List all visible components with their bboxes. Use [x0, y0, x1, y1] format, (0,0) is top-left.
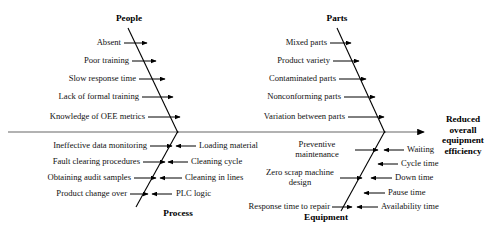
cause-process-right-1: Loading material — [199, 141, 289, 151]
cause-equipment-right-2: Cycle time — [401, 159, 471, 169]
cause-people-3: Slow response time — [20, 74, 136, 84]
cause-parts-1: Mixed parts — [230, 38, 327, 48]
fishbone-diagram: People Parts Process Equipment Reduced o… — [0, 0, 499, 249]
cause-equipment-right-3: Down time — [395, 173, 465, 183]
cause-equipment-right-5: Availability time — [381, 202, 471, 212]
cause-equipment-right-1: Waiting — [407, 145, 467, 155]
cause-equipment-right-4: Pause time — [388, 188, 458, 198]
category-label-process: Process — [148, 208, 208, 218]
effect-line-2: overall — [428, 125, 498, 136]
cause-equipment-left-3: Response time to repair — [220, 202, 330, 212]
cause-arrows-parts — [330, 43, 384, 117]
cause-process-left-1: Ineffective data monitoring — [20, 141, 147, 151]
category-label-equipment: Equipment — [295, 212, 357, 222]
cause-equipment-left-2: Zero scrap machine design — [263, 168, 337, 188]
cause-parts-4: Nonconforming parts — [226, 92, 341, 102]
cause-parts-3: Contaminated parts — [228, 74, 336, 84]
effect-line-1: Reduced — [428, 114, 498, 125]
cause-people-4: Lack of formal training — [14, 92, 139, 102]
category-label-parts: Parts — [307, 13, 367, 23]
cause-parts-2: Product variety — [230, 56, 330, 66]
cause-process-right-2: Cleaning cycle — [191, 157, 281, 167]
cause-parts-5: Variation between parts — [222, 112, 345, 122]
cause-process-right-4: PLC logic — [176, 189, 246, 199]
cause-people-5: Knowledge of OEE metrics — [10, 112, 145, 122]
cause-people-2: Poor training — [20, 56, 129, 66]
cause-process-left-4: Product change over — [22, 189, 127, 199]
category-label-people: People — [99, 13, 159, 23]
cause-process-left-3: Obtaining audit samples — [16, 173, 131, 183]
cause-arrows-process-right — [152, 146, 196, 194]
cause-people-1: Absent — [20, 38, 121, 48]
cause-process-left-2: Fault clearing procedures — [18, 157, 140, 167]
cause-equipment-left-1: Preventive maintenance — [281, 140, 353, 160]
